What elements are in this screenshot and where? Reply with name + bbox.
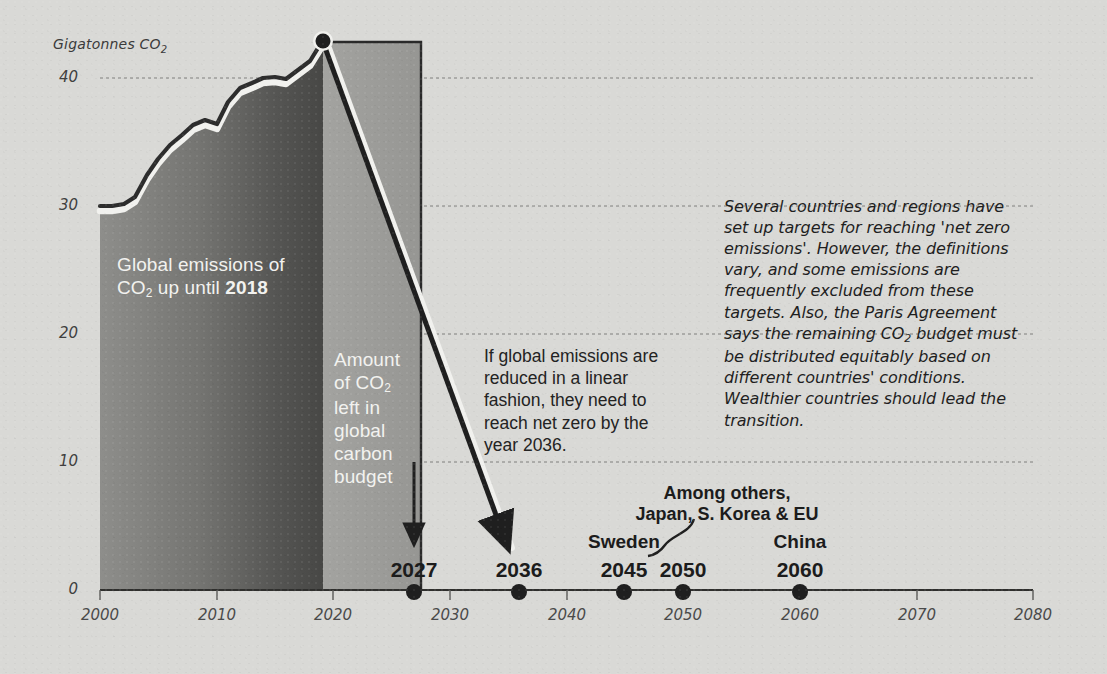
milestone-dot-2036 bbox=[511, 584, 527, 600]
milestone-label-2050: 2050 bbox=[643, 558, 723, 582]
area-series-label: Global emissions of CO2 up until 2018 bbox=[117, 253, 285, 301]
area-label-line2: CO2 up until 2018 bbox=[117, 276, 285, 301]
carbon-budget-bar bbox=[323, 42, 421, 590]
among-others-line1: Among others, bbox=[597, 483, 857, 504]
milestone-label-2060: 2060 bbox=[760, 558, 840, 582]
x-axis bbox=[100, 590, 1033, 600]
y-tick-20: 20 bbox=[44, 324, 78, 342]
bar-label-line3: left in bbox=[334, 396, 400, 419]
net-zero-definitions-note: Several countries and regions have set u… bbox=[724, 196, 1024, 431]
x-tick-2040: 2040 bbox=[532, 606, 602, 624]
x-tick-2020: 2020 bbox=[298, 606, 368, 624]
y-axis-title: Gigatonnes CO2 bbox=[53, 36, 167, 55]
milestone-dot-2027 bbox=[406, 584, 422, 600]
y-tick-30: 30 bbox=[44, 196, 78, 214]
milestone-dot-2050 bbox=[675, 584, 691, 600]
country-label-among-others: Among others, Japan, S. Korea & EU bbox=[597, 483, 857, 525]
country-label-china: China bbox=[750, 531, 850, 553]
milestone-label-2027: 2027 bbox=[374, 558, 454, 582]
among-others-line2: Japan, S. Korea & EU bbox=[597, 504, 857, 525]
bar-label-line2: of CO2 bbox=[334, 371, 400, 396]
x-tick-2080: 2080 bbox=[998, 606, 1068, 624]
x-tick-2030: 2030 bbox=[415, 606, 485, 624]
x-tick-2050: 2050 bbox=[648, 606, 718, 624]
bar-label-line6: budget bbox=[334, 465, 400, 488]
bar-label-line1: Amount bbox=[334, 348, 400, 371]
y-tick-0: 0 bbox=[44, 580, 78, 598]
milestone-dots bbox=[406, 584, 808, 600]
x-tick-2060: 2060 bbox=[765, 606, 835, 624]
y-tick-40: 40 bbox=[44, 68, 78, 86]
milestone-label-2036: 2036 bbox=[479, 558, 559, 582]
area-label-line1: Global emissions of bbox=[117, 253, 285, 276]
bar-label-line5: carbon bbox=[334, 442, 400, 465]
peak-marker bbox=[313, 31, 333, 51]
chart-root: Gigatonnes CO2 40 30 20 10 0 2000 2010 2… bbox=[0, 0, 1107, 674]
x-tick-2000: 2000 bbox=[65, 606, 135, 624]
bar-series-label: Amount of CO2 left in global carbon budg… bbox=[334, 348, 400, 488]
x-tick-2010: 2010 bbox=[182, 606, 252, 624]
x-tick-2070: 2070 bbox=[882, 606, 952, 624]
bar-label-line4: global bbox=[334, 419, 400, 442]
country-label-sweden: Sweden bbox=[574, 531, 674, 553]
milestone-dot-2045 bbox=[616, 584, 632, 600]
milestone-dot-2060 bbox=[792, 584, 808, 600]
y-tick-10: 10 bbox=[44, 452, 78, 470]
net-zero-callout: If global emissions are reduced in a lin… bbox=[484, 345, 664, 456]
